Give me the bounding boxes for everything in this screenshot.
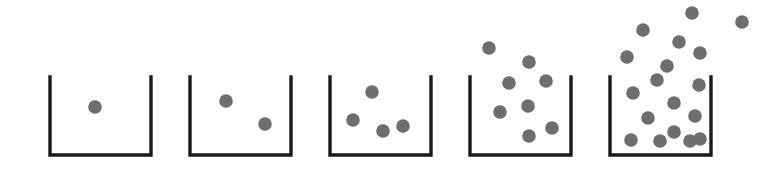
particle-escaped (482, 41, 496, 55)
particles-inside-1 (88, 100, 102, 114)
particle-inside (667, 125, 681, 139)
particle-escaped (685, 6, 699, 20)
particle-inside (545, 121, 559, 135)
particle-escaped (693, 46, 707, 60)
particle-inside (493, 105, 507, 119)
particle-inside (624, 133, 638, 147)
particle-inside (396, 119, 410, 133)
figure-root (0, 0, 775, 183)
particle-escaped (636, 23, 650, 37)
particle-escaped (735, 15, 749, 29)
particle-escaped (620, 50, 634, 64)
particle-inside (258, 117, 272, 131)
particle-inside (683, 134, 697, 148)
particle-inside (365, 85, 379, 99)
particle-escaped (672, 35, 686, 49)
particle-inside (88, 100, 102, 114)
particle-inside (502, 76, 516, 90)
particle-inside (692, 78, 706, 92)
particle-escaped (522, 55, 536, 69)
particle-inside (376, 124, 390, 138)
particle-inside (653, 134, 667, 148)
particle-inside (539, 74, 553, 88)
particle-inside (521, 99, 535, 113)
particle-containers-diagram (0, 0, 775, 183)
particle-inside (522, 129, 536, 143)
particle-inside (219, 94, 233, 108)
particle-inside (346, 113, 360, 127)
particle-inside (641, 111, 655, 125)
particle-inside (650, 73, 664, 87)
particle-inside (688, 109, 702, 123)
particle-escaped (660, 59, 674, 73)
particle-inside (667, 96, 681, 110)
particle-inside (626, 86, 640, 100)
